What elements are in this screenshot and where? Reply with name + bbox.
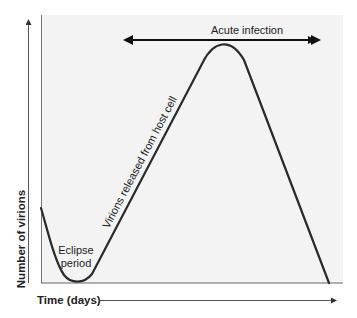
- viral-growth-curve-diagram: Number of virions Time (days) Acute infe…: [0, 0, 357, 318]
- acute-infection-label: Acute infection: [211, 24, 283, 36]
- eclipse-period-label-line2: period: [61, 257, 92, 269]
- x-axis-label: Time (days): [37, 294, 101, 306]
- y-axis-label: Number of virions: [15, 190, 27, 288]
- plot-panel: [41, 15, 343, 283]
- eclipse-period-label-line1: Eclipse: [58, 244, 93, 256]
